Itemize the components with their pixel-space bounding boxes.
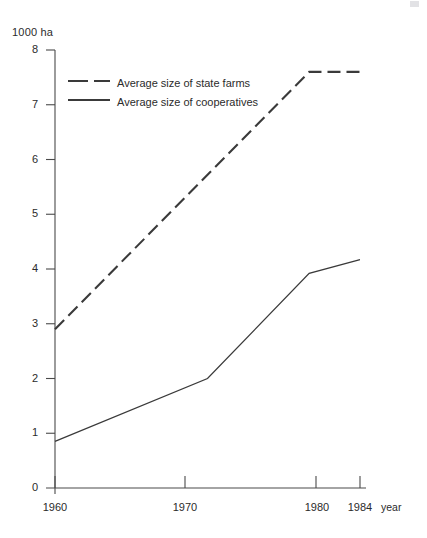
plot-area [0, 0, 427, 538]
chart-figure: 1000 ha 8 7 6 5 4 3 2 1 0 1960 1970 1980… [0, 0, 427, 538]
line-state-farms [55, 72, 360, 329]
series-cooperatives [55, 260, 360, 442]
series-state-farms [55, 72, 360, 329]
line-cooperatives [55, 260, 360, 442]
